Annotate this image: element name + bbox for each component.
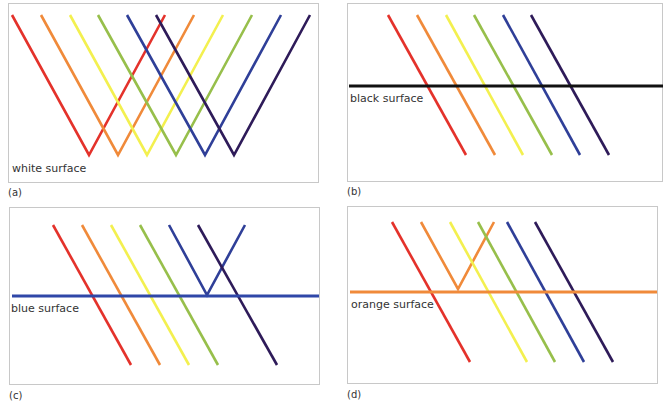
panel-label-d: (d): [347, 389, 361, 400]
surface-label-orange: orange surface: [351, 298, 434, 311]
panel-d-rays: [0, 0, 664, 411]
